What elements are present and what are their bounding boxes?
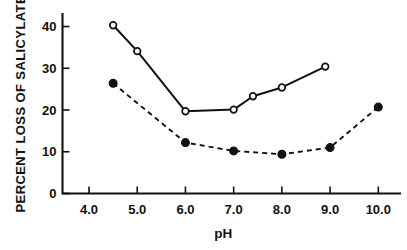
data-point-open-circle (182, 108, 189, 115)
data-series-layer (109, 22, 382, 158)
series-line (113, 83, 378, 154)
y-tick-label: 10 (42, 144, 56, 159)
salicylate-ph-line-chart: 010203040 4.05.06.07.08.09.010.0 PERCENT… (0, 0, 407, 250)
y-axis-ticks: 010203040 (42, 19, 69, 201)
x-tick-label: 4.0 (80, 202, 98, 217)
data-point-open-circle (134, 48, 141, 55)
axis-lines (63, 14, 401, 194)
data-point-filled-circle (374, 103, 382, 111)
x-tick-label: 8.0 (273, 202, 291, 217)
data-point-open-circle (250, 93, 257, 100)
x-tick-label: 5.0 (128, 202, 146, 217)
x-tick-label: 6.0 (176, 202, 194, 217)
axes-group (63, 14, 401, 194)
series-line (113, 25, 325, 111)
data-point-filled-circle (182, 139, 190, 147)
y-tick-label: 40 (42, 19, 56, 34)
y-tick-label: 20 (42, 103, 56, 118)
data-point-open-circle (110, 22, 117, 29)
data-point-open-circle (322, 63, 329, 70)
x-tick-label: 9.0 (321, 202, 339, 217)
data-point-filled-circle (109, 79, 117, 87)
data-point-open-circle (279, 84, 286, 91)
data-point-filled-circle (278, 150, 286, 158)
y-axis-title-group: PERCENT LOSS OF SALICYLATE (13, 0, 28, 212)
y-tick-label: 0 (49, 186, 56, 201)
x-axis-title: pH (214, 226, 232, 241)
series-filled-circle-dashed-line (109, 79, 382, 158)
data-point-open-circle (230, 106, 237, 113)
y-tick-label: 30 (42, 61, 56, 76)
x-axis-ticks: 4.05.06.07.08.09.010.0 (80, 187, 391, 217)
series-open-circle-solid-line (110, 22, 329, 115)
data-point-filled-circle (230, 147, 238, 155)
chart-figure: 010203040 4.05.06.07.08.09.010.0 PERCENT… (0, 0, 407, 250)
x-tick-label: 10.0 (366, 202, 391, 217)
x-tick-label: 7.0 (225, 202, 243, 217)
x-axis-title-group: pH (214, 226, 232, 241)
data-point-filled-circle (326, 144, 334, 152)
y-axis-title: PERCENT LOSS OF SALICYLATE (13, 0, 28, 212)
